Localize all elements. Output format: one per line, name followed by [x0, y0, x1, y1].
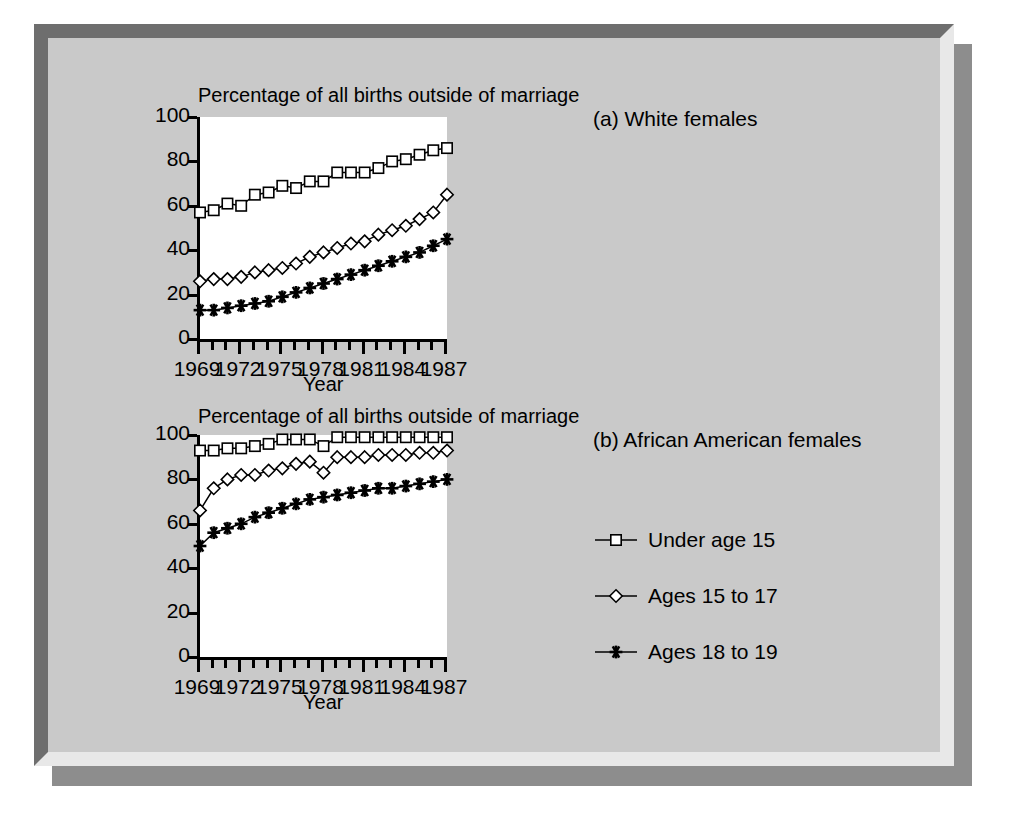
chart-b-ytick-label: 80: [135, 465, 190, 489]
figure-canvas: Percentage of all births outside of marr…: [0, 0, 1023, 815]
ytick-mark: [188, 338, 197, 341]
ytick-mark: [188, 249, 197, 252]
xtick-mark: [348, 660, 351, 668]
ytick-mark: [188, 116, 197, 119]
xtick-mark: [417, 660, 420, 668]
chart-a-xtick-label: 1987: [419, 357, 469, 381]
chart-a-ytick-label: 40: [135, 236, 190, 260]
chart-a-panel-label: (a) White females: [593, 107, 758, 131]
xtick-mark: [321, 660, 324, 672]
xtick-mark: [375, 660, 378, 668]
xtick-mark: [307, 660, 310, 668]
xtick-mark: [211, 660, 214, 668]
chart-b-xtick-label: 1987: [419, 675, 469, 699]
diamond-marker-icon: [593, 587, 639, 605]
chart-b-title: Percentage of all births outside of marr…: [198, 405, 579, 428]
chart-a-title: Percentage of all births outside of marr…: [198, 84, 579, 107]
xtick-mark: [417, 342, 420, 350]
xtick-mark: [238, 342, 241, 354]
xtick-mark: [430, 660, 433, 668]
chart-b-ytick-label: 40: [135, 554, 190, 578]
chart-a-ytick-label: 80: [135, 147, 190, 171]
legend-item: Ages 18 to 19: [593, 640, 778, 664]
xtick-mark: [197, 342, 200, 354]
legend-item-label: Under age 15: [648, 528, 775, 552]
xtick-mark: [444, 660, 447, 672]
xtick-mark: [211, 342, 214, 350]
xtick-mark: [238, 660, 241, 672]
xtick-mark: [224, 342, 227, 350]
xtick-mark: [403, 342, 406, 354]
xtick-mark: [293, 660, 296, 668]
chart-a-plot-area: [197, 117, 447, 342]
xtick-mark: [362, 660, 365, 672]
chart-a-ytick-label: 100: [135, 103, 190, 127]
ytick-mark: [188, 205, 197, 208]
xtick-mark: [321, 342, 324, 354]
xtick-mark: [375, 342, 378, 350]
ytick-mark: [188, 612, 197, 615]
xtick-mark: [389, 342, 392, 350]
xtick-mark: [224, 660, 227, 668]
xtick-mark: [389, 660, 392, 668]
xtick-mark: [348, 342, 351, 350]
xtick-mark: [279, 342, 282, 354]
xtick-mark: [403, 660, 406, 672]
ytick-mark: [188, 160, 197, 163]
legend-item-label: Ages 18 to 19: [648, 640, 778, 664]
xtick-mark: [266, 342, 269, 350]
xtick-mark: [197, 660, 200, 672]
chart-a-ytick-label: 0: [135, 325, 190, 349]
figure-panel: Percentage of all births outside of marr…: [48, 38, 940, 752]
ytick-mark: [188, 294, 197, 297]
xtick-mark: [430, 342, 433, 350]
legend-item: Under age 15: [593, 528, 775, 552]
ytick-mark: [188, 656, 197, 659]
ytick-mark: [188, 523, 197, 526]
chart-b-panel-label: (b) African American females: [593, 428, 861, 452]
chart-b-ytick-label: 20: [135, 599, 190, 623]
chart-b-ytick-label: 60: [135, 510, 190, 534]
xtick-mark: [266, 660, 269, 668]
chart-b-plot-area: [197, 435, 447, 660]
chart-a-ytick-label: 60: [135, 192, 190, 216]
xtick-mark: [334, 342, 337, 350]
chart-b-ytick-label: 0: [135, 643, 190, 667]
star-marker-icon: [593, 643, 639, 661]
chart-a-ytick-label: 20: [135, 281, 190, 305]
xtick-mark: [334, 660, 337, 668]
legend-item-label: Ages 15 to 17: [648, 584, 778, 608]
xtick-mark: [307, 342, 310, 350]
xtick-mark: [362, 342, 365, 354]
chart-b-ytick-label: 100: [135, 421, 190, 445]
ytick-mark: [188, 567, 197, 570]
xtick-mark: [252, 660, 255, 668]
xtick-mark: [293, 342, 296, 350]
ytick-mark: [188, 478, 197, 481]
xtick-mark: [279, 660, 282, 672]
xtick-mark: [252, 342, 255, 350]
legend-item: Ages 15 to 17: [593, 584, 778, 608]
square-marker-icon: [593, 531, 639, 549]
xtick-mark: [444, 342, 447, 354]
ytick-mark: [188, 434, 197, 437]
